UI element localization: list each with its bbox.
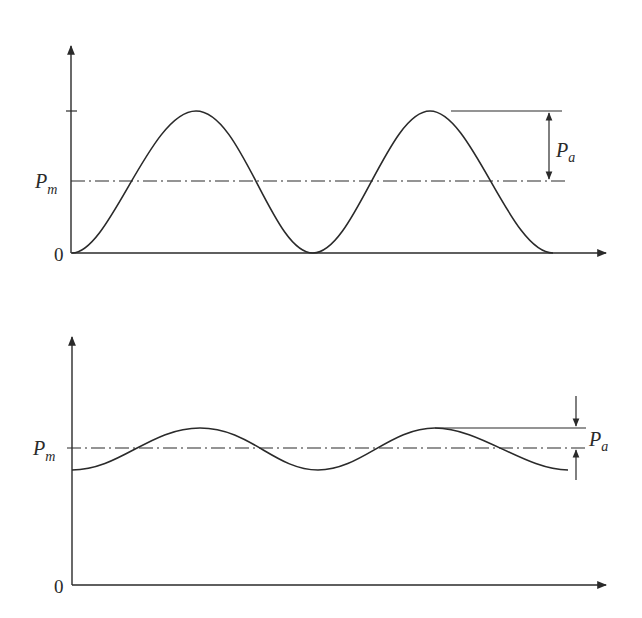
bottom-mean-label: Pm: [32, 437, 55, 464]
diagram-canvas: Pa Pm 0 Pa Pm 0: [0, 0, 642, 618]
top-load-curve: [72, 111, 553, 253]
top-origin-label: 0: [54, 244, 64, 265]
bottom-origin-label: 0: [54, 576, 64, 597]
bottom-amplitude-label: Pa: [588, 428, 608, 454]
top-panel: Pa Pm 0: [34, 46, 606, 265]
top-amplitude-label: Pa: [555, 139, 575, 165]
top-mean-label: Pm: [34, 170, 57, 197]
bottom-load-curve: [72, 428, 568, 470]
bottom-panel: Pa Pm 0: [32, 337, 608, 597]
